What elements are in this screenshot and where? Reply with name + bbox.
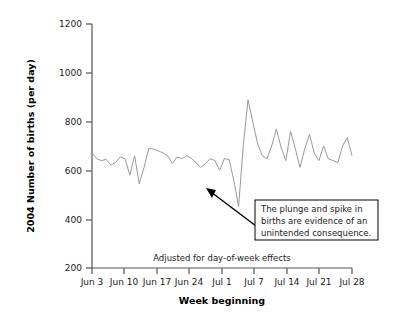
adjustment-note: Adjusted for day-of-week effects — [153, 253, 291, 263]
births-line-series — [92, 100, 352, 207]
y-tick-label-800: 800 — [65, 117, 82, 127]
x-tick-label-jul-7: Jul 7 — [243, 277, 263, 287]
y-tick-label-1200: 1200 — [59, 19, 82, 29]
y-tick-label-400: 400 — [65, 215, 82, 225]
callout-line-2: births are evidence of an — [261, 216, 367, 226]
y-tick-label-200: 200 — [65, 263, 82, 273]
x-tick-label-jun-3: Jun 3 — [80, 277, 104, 287]
x-tick-label-jun-10: Jun 10 — [109, 277, 139, 287]
x-tick-label-jul-28: Jul 28 — [338, 277, 364, 287]
callout-line-3: unintended consequence. — [261, 228, 371, 238]
x-tick-label-jul-1: Jul 1 — [211, 277, 231, 287]
x-tick-label-jun-24: Jun 24 — [174, 277, 204, 287]
x-tick-label-jul-21: Jul 21 — [305, 277, 331, 287]
y-tick-label-1000: 1000 — [59, 68, 82, 78]
callout-arrow — [206, 188, 256, 226]
x-axis-title: Week beginning — [179, 295, 265, 306]
birth-rate-chart-figure: 1200 1000 800 600 400 200 Jun 3 Jun 10 J… — [0, 0, 397, 324]
callout-line-1: The plunge and spike in — [260, 204, 363, 214]
y-tick-label-600: 600 — [65, 166, 82, 176]
x-tick-label-jun-17: Jun 17 — [142, 277, 171, 287]
x-tick-label-jul-14: Jul 14 — [273, 277, 299, 287]
x-tick-marks — [92, 268, 352, 274]
chart-canvas: 1200 1000 800 600 400 200 Jun 3 Jun 10 J… — [0, 0, 397, 324]
y-axis-title: 2004 Number of births (per day) — [25, 59, 36, 233]
y-tick-marks — [86, 24, 92, 268]
